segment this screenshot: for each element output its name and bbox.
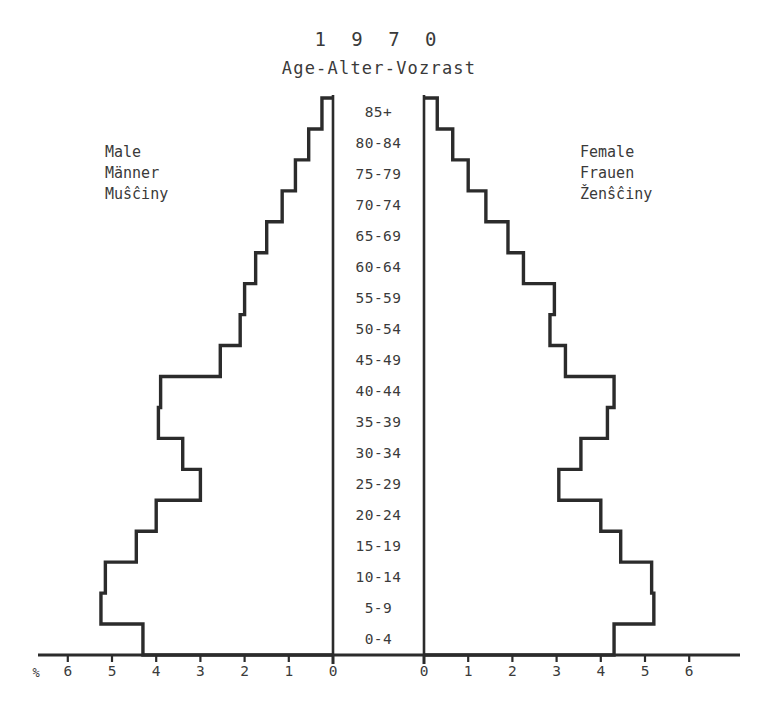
age-band-label-20-24: 20-24 <box>333 507 424 523</box>
axis-tick-label-right-2: 2 <box>497 663 527 679</box>
age-band-label-80-84: 80-84 <box>333 135 424 151</box>
axis-tick-label-left-5: 1 <box>274 663 304 679</box>
age-band-label-85plus: 85+ <box>333 104 424 120</box>
age-band-label-55-59: 55-59 <box>333 290 424 306</box>
axis-tick-label-right-1: 1 <box>453 663 483 679</box>
axis-tick-label-left-1: 5 <box>97 663 127 679</box>
population-pyramid-chart: 1 9 7 0 Age-Alter-Vozrast Male Männer Mu… <box>0 0 758 725</box>
axis-tick-label-right-5: 5 <box>630 663 660 679</box>
age-band-label-40-44: 40-44 <box>333 383 424 399</box>
age-band-label-65-69: 65-69 <box>333 228 424 244</box>
age-band-label-35-39: 35-39 <box>333 414 424 430</box>
axis-tick-label-left-3: 3 <box>185 663 215 679</box>
male-outline-path <box>101 98 333 655</box>
axis-tick-label-left-6: 0 <box>318 663 348 679</box>
age-band-label-25-29: 25-29 <box>333 476 424 492</box>
male-pyramid-outline <box>101 98 333 655</box>
age-band-label-50-54: 50-54 <box>333 321 424 337</box>
age-band-label-45-49: 45-49 <box>333 352 424 368</box>
axis-tick-label-right-4: 4 <box>586 663 616 679</box>
axis-tick-label-left-2: 4 <box>141 663 171 679</box>
age-band-label-30-34: 30-34 <box>333 445 424 461</box>
axis-tick-label-right-6: 6 <box>674 663 704 679</box>
age-band-label-75-79: 75-79 <box>333 166 424 182</box>
age-band-label-60-64: 60-64 <box>333 259 424 275</box>
female-pyramid-outline <box>424 98 654 655</box>
axis-unit-percent: % <box>25 666 47 680</box>
axis-tick-label-right-0: 0 <box>409 663 439 679</box>
age-band-label-10-14: 10-14 <box>333 569 424 585</box>
age-band-label-0-4: 0-4 <box>333 631 424 647</box>
axis-tick-label-left-4: 2 <box>230 663 260 679</box>
female-outline-path <box>424 98 654 655</box>
age-band-label-5-9: 5-9 <box>333 600 424 616</box>
age-band-label-70-74: 70-74 <box>333 197 424 213</box>
age-band-label-15-19: 15-19 <box>333 538 424 554</box>
axis-tick-label-left-0: 6 <box>53 663 83 679</box>
axis-tick-label-right-3: 3 <box>542 663 572 679</box>
